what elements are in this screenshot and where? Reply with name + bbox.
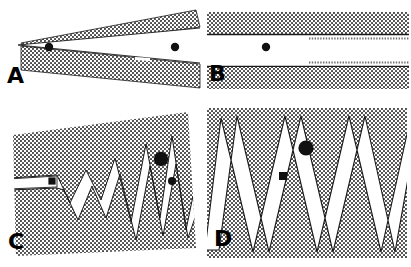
panel-d-label: D bbox=[214, 228, 232, 250]
upper-stipple-band bbox=[207, 12, 409, 34]
lower-stipple-band bbox=[207, 67, 409, 89]
panel-d: D bbox=[205, 100, 411, 267]
panel-b: B bbox=[205, 0, 411, 100]
panel-a-graphic bbox=[0, 0, 205, 100]
panel-a-label: A bbox=[7, 65, 24, 87]
panel-d-graphic bbox=[205, 100, 411, 267]
lower-marker-small bbox=[168, 177, 176, 185]
panel-b-label: B bbox=[209, 63, 226, 85]
entry-marker bbox=[48, 177, 55, 184]
panel-c: C bbox=[0, 100, 205, 267]
panel-c-graphic bbox=[0, 100, 205, 267]
panel-a: A bbox=[0, 0, 205, 100]
peak-marker-large bbox=[298, 140, 313, 155]
lower-marker-small bbox=[279, 172, 287, 180]
apex-marker bbox=[45, 43, 53, 51]
gap-marker bbox=[262, 43, 270, 51]
figure-canvas: A B bbox=[0, 0, 411, 267]
peak-marker-large bbox=[154, 152, 168, 166]
panel-b-graphic bbox=[205, 0, 411, 100]
gap-marker bbox=[171, 43, 179, 51]
panel-c-label: C bbox=[8, 231, 24, 253]
